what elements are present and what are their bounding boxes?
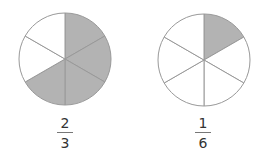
fraction-circles-diagram	[0, 0, 264, 156]
fraction-bar	[57, 132, 73, 133]
fraction-left: 2 3	[50, 116, 80, 150]
numerator: 2	[50, 116, 80, 130]
pie-circle-right	[158, 14, 250, 106]
numerator: 1	[188, 116, 218, 130]
fraction-right: 1 6	[188, 116, 218, 150]
pie-circle-left	[19, 13, 111, 105]
denominator: 6	[188, 136, 218, 150]
denominator: 3	[50, 136, 80, 150]
fraction-bar	[195, 132, 211, 133]
